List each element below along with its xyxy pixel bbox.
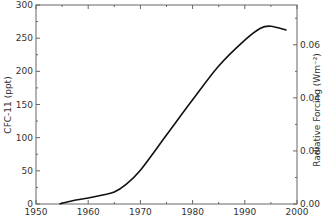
y2-axis-label: Radiative Forcing (Wm⁻²) bbox=[312, 53, 322, 167]
y-tick-label: 50 bbox=[22, 166, 34, 176]
cfc11-line-chart: 1950196019701980199020000501001502002503… bbox=[0, 0, 328, 218]
plot-axes: 1950196019701980199020000501001502002503… bbox=[16, 0, 321, 217]
y-tick-label: 200 bbox=[16, 66, 33, 76]
x-tick-label: 1990 bbox=[233, 207, 256, 217]
x-tick-label: 1980 bbox=[181, 207, 204, 217]
x-tick-label: 1960 bbox=[77, 207, 100, 217]
cfc11-data-line bbox=[59, 26, 286, 204]
y-tick-label: 300 bbox=[16, 0, 33, 10]
plot-frame bbox=[36, 5, 297, 204]
y-tick-label: 150 bbox=[16, 100, 33, 110]
y2-tick-label: 0.06 bbox=[300, 40, 320, 50]
y-tick-label: 0 bbox=[27, 199, 33, 209]
y2-tick-label: 0.00 bbox=[300, 199, 320, 209]
y-tick-label: 250 bbox=[16, 33, 33, 43]
y-tick-label: 100 bbox=[16, 133, 33, 143]
x-tick-label: 1970 bbox=[129, 207, 152, 217]
y-axis-label: CFC-11 (ppt) bbox=[3, 76, 13, 133]
